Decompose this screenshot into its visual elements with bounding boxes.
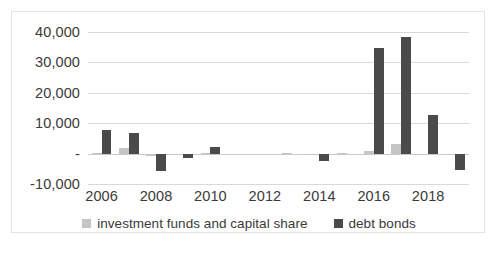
gridline [88,123,469,124]
bar-group [201,32,221,184]
bar-debt-bonds-2014 [319,154,329,162]
x-tick-label: 2014 [303,188,336,204]
bar-group [364,32,384,184]
bar-group [418,32,438,184]
bar-debt-bonds-2006 [102,130,112,153]
bar-debt-bonds-2016 [374,48,384,154]
chart-legend: investment funds and capital sharedebt b… [12,213,486,233]
bar-group [92,32,112,184]
bar-group [228,32,248,184]
bar-group [255,32,275,184]
legend-item[interactable]: investment funds and capital share [82,216,307,231]
bar-group [146,32,166,184]
x-tick-label: 2006 [85,188,118,204]
y-tick-label: 20,000 [35,85,80,101]
bar-investment-funds-and-capital-share-2016 [364,151,374,154]
x-axis: 2006200820102012201420162018 [88,188,469,210]
x-tick-label: 2012 [249,188,282,204]
bar-investment-funds-and-capital-share-2014 [310,154,320,156]
bar-investment-funds-and-capital-share-2006 [92,153,102,155]
gridline [88,93,469,94]
bar-group [310,32,330,184]
legend-label: investment funds and capital share [97,216,307,231]
y-tick-label: 30,000 [35,54,80,70]
legend-label: debt bonds [349,216,416,231]
legend-swatch-icon [82,219,91,228]
bar-debt-bonds-2017 [401,37,411,153]
bar-group [446,32,466,184]
y-tick-label: -10,000 [30,176,80,192]
bar-investment-funds-and-capital-share-2018 [418,154,428,156]
plot-area [88,32,469,184]
bar-debt-bonds-2009 [183,154,193,158]
zero-gridline [88,154,469,155]
bar-debt-bonds-2019 [455,154,465,171]
bar-debt-bonds-2010 [210,147,220,154]
bar-group [119,32,139,184]
bar-group [282,32,302,184]
y-tick-label: 10,000 [35,115,80,131]
gridline [88,32,469,33]
bar-investment-funds-and-capital-share-2015 [337,153,347,155]
bar-debt-bonds-2007 [129,133,139,153]
x-tick-label: 2016 [357,188,390,204]
gridline [88,62,469,63]
x-tick-label: 2010 [194,188,227,204]
chart-frame: 40,00030,00020,00010,000--10,000 2006200… [11,11,485,233]
bar-investment-funds-and-capital-share-2007 [119,148,129,154]
bar-debt-bonds-2008 [156,154,166,172]
legend-swatch-icon [334,219,343,228]
bar-group [173,32,193,184]
bar-debt-bonds-2018 [428,115,438,154]
bar-investment-funds-and-capital-share-2017 [391,144,401,153]
gridline [88,184,469,185]
y-tick-label: 40,000 [35,24,80,40]
bar-group [391,32,411,184]
bar-investment-funds-and-capital-share-2010 [201,153,211,155]
bar-investment-funds-and-capital-share-2013 [282,153,292,155]
y-tick-label: - [75,146,80,162]
bar-investment-funds-and-capital-share-2008 [146,154,156,156]
bar-investment-funds-and-capital-share-2009 [173,154,183,156]
x-tick-label: 2008 [140,188,173,204]
bar-group [337,32,357,184]
x-tick-label: 2018 [412,188,445,204]
y-axis: 40,00030,00020,00010,000--10,000 [12,32,84,184]
legend-item[interactable]: debt bonds [334,216,416,231]
